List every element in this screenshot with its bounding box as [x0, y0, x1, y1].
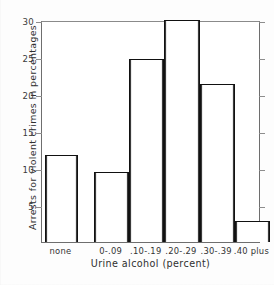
- y-tick-right: [259, 59, 265, 60]
- x-tick-label-0-09: 0-.09: [99, 246, 122, 256]
- y-tick-label: 10: [22, 165, 34, 175]
- y-tick-label: 30: [22, 17, 34, 27]
- y-tick: [36, 96, 42, 97]
- y-tick-right: [259, 133, 265, 134]
- y-tick-label: 15: [22, 128, 34, 138]
- y-tick: [36, 59, 42, 60]
- bar--30-39: [200, 84, 235, 242]
- y-tick: [36, 133, 42, 134]
- y-tick-label: 5: [28, 202, 34, 212]
- bar--10-19: [129, 59, 164, 242]
- plot-area: 51015202530: [41, 21, 260, 243]
- x-tick-label--30-39: .30-.39: [200, 246, 231, 256]
- y-tick-right: [259, 207, 265, 208]
- y-tick: [36, 207, 42, 208]
- y-tick: [36, 170, 42, 171]
- y-tick-label: 25: [22, 54, 34, 64]
- x-tick-label--20-29: .20-.29: [165, 246, 196, 256]
- y-tick: [36, 22, 42, 23]
- x-axis-title: Urine alcohol (percent): [41, 258, 260, 269]
- y-tick-right: [259, 22, 265, 23]
- x-tick-label--10-19: .10-.19: [130, 246, 161, 256]
- x-tick-label--40-plus: .40 plus: [234, 246, 269, 256]
- bar--20-29: [164, 20, 199, 242]
- bar-none: [45, 155, 78, 242]
- y-tick-label: 20: [22, 91, 34, 101]
- y-tick-right: [259, 96, 265, 97]
- bar--40-plus: [235, 221, 270, 242]
- chart-figure: Arrests for violent crimes in percentage…: [0, 0, 274, 285]
- y-tick-right: [259, 170, 265, 171]
- bar-0-09: [94, 172, 129, 242]
- x-tick-label-none: none: [50, 246, 72, 256]
